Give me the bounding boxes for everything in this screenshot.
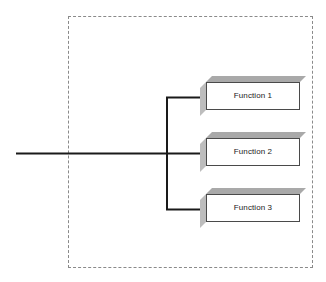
function-block-1[interactable]: Function 1 (200, 76, 300, 110)
diagram-canvas: Function 1 Function 2 Function 3 (0, 0, 326, 282)
function-block-3[interactable]: Function 3 (200, 188, 300, 222)
function-block-3-label: Function 3 (234, 204, 272, 212)
block-front-face: Function 2 (206, 138, 300, 166)
block-front-face: Function 3 (206, 194, 300, 222)
function-block-2-label: Function 2 (234, 148, 272, 156)
function-block-2[interactable]: Function 2 (200, 132, 300, 166)
block-front-face: Function 1 (206, 82, 300, 110)
function-block-1-label: Function 1 (234, 92, 272, 100)
